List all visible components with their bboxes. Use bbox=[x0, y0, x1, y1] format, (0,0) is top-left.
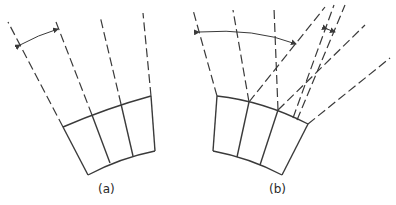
panel-b-divider-2 bbox=[260, 110, 278, 165]
panel-b-ray-4 bbox=[249, 7, 325, 102]
panel-a-left-edge bbox=[63, 127, 88, 175]
panel-b-divider-1 bbox=[237, 102, 249, 157]
panel-a-radial-2 bbox=[56, 22, 92, 115]
diagram-canvas bbox=[0, 0, 396, 205]
panel-b-left-edge bbox=[213, 96, 217, 151]
panel-a-divider-2 bbox=[121, 104, 133, 156]
panel-b-ray-3 bbox=[274, 8, 278, 110]
panel-a-top-arc bbox=[63, 96, 151, 127]
panel-a-divider-1 bbox=[92, 115, 110, 163]
panel-b-right-edge bbox=[282, 124, 308, 175]
panel-a-label: (a) bbox=[98, 182, 115, 196]
panel-a-radial-4 bbox=[143, 13, 151, 96]
panel-a-right-edge bbox=[151, 96, 155, 151]
panel-a-angle-arrow bbox=[20, 29, 58, 45]
panel-b-ray-1 bbox=[193, 10, 217, 96]
panel-b-bottom-arc bbox=[213, 151, 282, 175]
panel-b-ray-7 bbox=[297, 5, 345, 120]
panel-b-label: (b) bbox=[269, 182, 286, 196]
panel-a-radial-3 bbox=[100, 16, 121, 104]
panel-b-top-arc bbox=[217, 96, 308, 124]
panel-b-wide-angle-arrow bbox=[199, 31, 296, 44]
panel-a bbox=[8, 13, 155, 175]
panel-a-bottom-arc bbox=[88, 151, 155, 175]
panel-b bbox=[193, 5, 390, 175]
panel-b-ray-2 bbox=[233, 10, 249, 102]
